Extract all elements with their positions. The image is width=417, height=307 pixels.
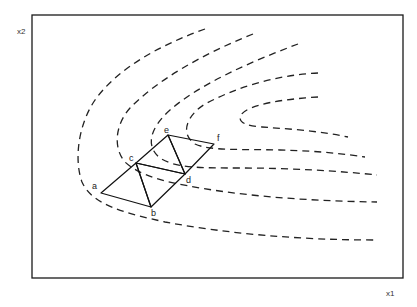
vertex-label-d: d <box>186 175 191 185</box>
contour-4 <box>117 34 377 202</box>
contour-lines <box>78 29 377 240</box>
simplex-cde <box>136 135 185 174</box>
vertex-label-c: c <box>129 153 134 163</box>
vertex-label-f: f <box>217 133 220 143</box>
contour-1 <box>240 97 348 137</box>
vertex-label-a: a <box>92 181 97 191</box>
contour-5 <box>78 29 377 240</box>
y-axis-label: x2 <box>17 27 26 36</box>
contour-3 <box>151 44 377 175</box>
simplex-diagram: a b c d e f x2 x1 <box>0 0 417 307</box>
vertex-label-e: e <box>164 125 169 135</box>
simplex-bcd <box>136 163 185 207</box>
vertex-label-b: b <box>151 208 156 218</box>
x-axis-label: x1 <box>386 289 395 298</box>
simplex-def <box>168 135 214 174</box>
plot-frame <box>32 15 403 278</box>
